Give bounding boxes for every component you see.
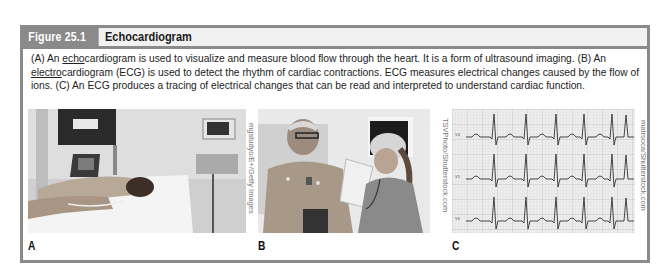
caption-term-electro: electro — [31, 66, 62, 78]
figure-caption: (A) An echocardiogram is used to visuali… — [31, 52, 643, 93]
figure-header: Figure 25.1 Echocardiogram — [23, 28, 647, 49]
lead-label-v4: V4 — [455, 132, 461, 137]
lead-label-v5: V5 — [455, 174, 461, 179]
panel-label-c: C — [452, 239, 459, 253]
photo-credit-b: mgstudyo/E+/Getty Images — [247, 123, 256, 214]
caption-text-2: cardiogram is used to visualize and meas… — [85, 52, 606, 64]
figure-title: Echocardiogram — [105, 30, 192, 44]
caption-term-echo: echo — [62, 52, 84, 64]
caption-text-1: (A) An — [31, 52, 62, 64]
photo-ecg-patient — [258, 109, 430, 233]
photo-credit-c: matrsoca/Shutterstock.com — [639, 120, 648, 211]
caption-text-3: cardiogram (ECG) is used to detect the r… — [31, 66, 639, 92]
lead-label-v6: V6 — [455, 216, 461, 221]
photo-credit-b-right: TSVPhoto/Shutterstock.com — [441, 118, 450, 212]
photo-echocardiogram — [28, 109, 246, 233]
panel-label-a: A — [28, 239, 35, 253]
figure-number: Figure 25.1 — [23, 28, 99, 46]
ecg-tracing: V4 V5 V6 — [452, 109, 635, 233]
figure-frame: Figure 25.1 Echocardiogram (A) An echoca… — [20, 25, 650, 263]
panel-label-b: B — [258, 239, 265, 253]
